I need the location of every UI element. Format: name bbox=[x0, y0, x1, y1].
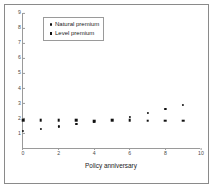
x-axis-tick-mark bbox=[22, 148, 23, 150]
data-point-level bbox=[93, 120, 96, 123]
y-axis-tick-mark bbox=[23, 133, 25, 134]
y-axis-tick-mark bbox=[23, 103, 25, 104]
data-point-level bbox=[40, 119, 43, 122]
data-point-natural bbox=[75, 123, 77, 125]
y-axis-tick-mark bbox=[23, 88, 25, 89]
data-point-natural bbox=[40, 128, 42, 130]
y-axis-tick-label: 3 bbox=[18, 101, 23, 106]
x-axis-tick-label: 6 bbox=[128, 148, 131, 156]
x-axis-tick-label: 0 bbox=[22, 148, 25, 156]
x-axis-tick-mark bbox=[165, 148, 166, 150]
y-axis-tick-label: 9 bbox=[18, 10, 23, 15]
y-axis-tick-mark bbox=[23, 73, 25, 74]
x-axis-tick-mark bbox=[58, 148, 59, 150]
x-axis-tick-mark bbox=[129, 148, 130, 150]
x-axis-tick-label: 10 bbox=[198, 148, 204, 156]
x-axis-tick-mark bbox=[94, 148, 95, 150]
plot-wrapper: 123456789 0246810 Policy anniversary Nat… bbox=[5, 5, 208, 183]
chart-figure: 123456789 0246810 Policy anniversary Nat… bbox=[4, 4, 209, 184]
y-axis-tick-mark bbox=[23, 28, 25, 29]
data-point-level bbox=[164, 119, 167, 122]
data-point-natural bbox=[58, 125, 60, 127]
data-point-level bbox=[182, 119, 185, 122]
data-point-natural bbox=[22, 130, 24, 132]
legend-label-natural-premium: Natural premium bbox=[55, 21, 99, 28]
data-point-natural bbox=[147, 112, 149, 114]
data-point-level bbox=[22, 119, 25, 122]
y-axis-tick-mark bbox=[23, 43, 25, 44]
legend-marker-circle-icon bbox=[47, 23, 55, 25]
data-point-level bbox=[57, 119, 60, 122]
x-axis-label: Policy anniversary bbox=[22, 162, 200, 169]
chart-legend: Natural premium Level premium bbox=[43, 17, 104, 41]
data-point-level bbox=[146, 119, 149, 122]
y-axis-tick-label: 7 bbox=[18, 41, 23, 46]
legend-item-natural-premium: Natural premium bbox=[47, 20, 99, 29]
data-point-level bbox=[111, 119, 114, 122]
x-axis-tick-label: 2 bbox=[57, 148, 60, 156]
y-axis-tick-mark bbox=[23, 58, 25, 59]
y-axis-tick-label: 6 bbox=[18, 56, 23, 61]
data-point-level bbox=[129, 119, 132, 122]
x-axis-tick-label: 8 bbox=[164, 148, 167, 156]
x-axis-tick-mark bbox=[201, 148, 202, 150]
legend-label-level-premium: Level premium bbox=[55, 30, 94, 37]
y-axis-tick-label: 4 bbox=[18, 86, 23, 91]
y-axis-tick-label: 1 bbox=[18, 131, 23, 136]
legend-item-level-premium: Level premium bbox=[47, 29, 99, 38]
data-point-natural bbox=[164, 108, 166, 110]
data-point-level bbox=[75, 119, 78, 122]
y-axis-tick-label: 8 bbox=[18, 26, 23, 31]
legend-marker-square-icon bbox=[47, 32, 55, 35]
y-axis-tick-mark bbox=[23, 12, 25, 13]
data-point-natural bbox=[182, 104, 184, 106]
x-axis-tick-label: 4 bbox=[93, 148, 96, 156]
y-axis-tick-label: 5 bbox=[18, 71, 23, 76]
